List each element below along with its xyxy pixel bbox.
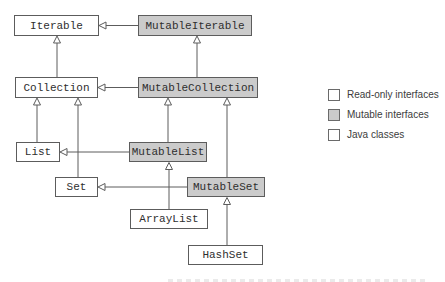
edge-mutablecollection-extends-mutableiterable: [194, 36, 201, 77]
edge-mutablelist-extends-list: [60, 149, 129, 156]
edge-mutablecollection-extends-collection: [98, 84, 138, 91]
edge-mutablelist-extends-mutablecollection: [165, 98, 172, 142]
class-box-mutable-set: MutableSet: [187, 177, 265, 197]
class-box-list: List: [16, 142, 60, 162]
legend: Read-only interfaces Mutable interfaces …: [328, 88, 439, 148]
legend-label: Mutable interfaces: [347, 109, 429, 120]
class-box-mutable-iterable: MutableIterable: [138, 15, 252, 36]
class-box-iterable: Iterable: [14, 15, 99, 36]
edge-hashset-implements-mutableset: [224, 198, 231, 246]
edge-arraylist-implements-mutablelist: [166, 163, 173, 210]
java-classes-swatch-icon: [328, 129, 340, 141]
read-only-swatch-icon: [328, 89, 340, 101]
legend-item-mutable: Mutable interfaces: [328, 108, 439, 121]
edge-mutableset-extends-mutablecollection: [224, 98, 231, 177]
edge-collection-extends-iterable: [54, 36, 61, 77]
edge-set-extends-collection: [75, 98, 82, 177]
class-hierarchy-diagram: Iterable MutableIterable Collection Muta…: [0, 0, 445, 282]
legend-label: Java classes: [347, 129, 404, 140]
edge-list-extends-collection: [34, 98, 41, 142]
legend-item-read-only: Read-only interfaces: [328, 88, 439, 101]
class-box-arraylist: ArrayList: [130, 209, 208, 229]
legend-item-java-classes: Java classes: [328, 128, 439, 141]
class-box-mutable-collection: MutableCollection: [138, 77, 258, 98]
class-box-collection: Collection: [15, 77, 98, 98]
class-box-set: Set: [55, 177, 98, 197]
edge-mutableset-extends-set: [98, 184, 187, 191]
class-box-mutable-list: MutableList: [129, 142, 207, 162]
mutable-swatch-icon: [328, 109, 340, 121]
edge-mutableiterable-extends-iterable: [99, 22, 138, 29]
class-box-hashset: HashSet: [188, 245, 263, 265]
legend-label: Read-only interfaces: [347, 89, 439, 100]
